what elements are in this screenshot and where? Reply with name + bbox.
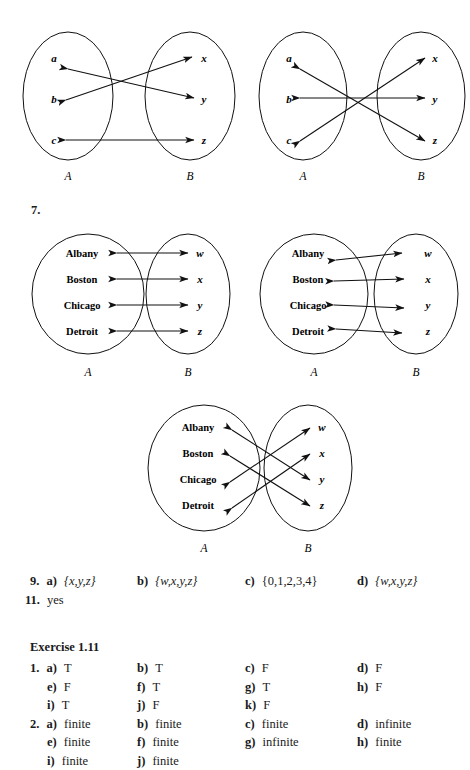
arrow-boston-z — [230, 456, 310, 506]
answer-number-9: 9. — [30, 574, 39, 588]
answers-section: 9. a) {x,y,z} b) {w,x,y,z} c) {0,1,2,3,4… — [0, 572, 470, 609]
exercise-value-2g: infinite — [263, 735, 299, 749]
exercise-value-1b: T — [155, 661, 163, 675]
element-label-albany: Albany — [182, 422, 215, 433]
exercise-number-7: 7. — [31, 203, 40, 218]
exercise-2-e: e) finite — [47, 733, 90, 752]
exercise-value-2c: finite — [262, 717, 288, 731]
exercise-row-1-ijk: i) T j) F k) F — [0, 696, 470, 715]
exercise-part-g: g) — [245, 680, 255, 694]
answer-part-d: d) — [357, 574, 368, 588]
exercise-2-f: f) finite — [137, 733, 179, 752]
exercise-part-g2: g) — [245, 735, 255, 749]
exercise-value-2b: finite — [155, 717, 181, 731]
exercise-1-g: g) T — [245, 678, 270, 697]
exercise-value-2h: finite — [375, 735, 401, 749]
diagram-4: Albany Boston Chicago Detroit w x y z A … — [252, 232, 468, 392]
exercise-1-h: h) F — [357, 678, 382, 697]
element-label-y: y — [318, 473, 325, 485]
exercise-value-1h: F — [375, 680, 382, 694]
element-label-x: x — [318, 447, 325, 459]
arrow-albany-w — [336, 253, 402, 260]
exercise-part-e2: e) — [47, 735, 57, 749]
exercise-number-2: 2. — [30, 717, 39, 731]
answer-value-11: yes — [47, 593, 64, 607]
exercise-part-f2: f) — [137, 735, 145, 749]
element-label-chicago: Chicago — [64, 300, 101, 311]
exercise-2-h: h) finite — [357, 733, 402, 752]
set-b-ellipse — [145, 32, 235, 160]
exercise-1-j: j) F — [137, 696, 159, 715]
exercise-2-j: j) finite — [137, 752, 179, 770]
answer-part-a: a) — [47, 574, 57, 588]
exercise-2-g: g) infinite — [245, 733, 299, 752]
element-label-a: a — [51, 52, 57, 64]
exercise-2-c: c) finite — [245, 715, 288, 734]
set-b-label: B — [304, 542, 311, 554]
element-label-w: w — [318, 421, 326, 433]
arrow-detroit-z — [336, 329, 402, 333]
diagram-5: Albany Boston Chicago Detroit w x y z A … — [140, 400, 358, 568]
answer-value-9d: {w,x,y,z} — [375, 574, 417, 588]
diagram-3-svg: Albany Boston Chicago Detroit w x y z A … — [22, 232, 240, 392]
set-b-ellipse — [377, 32, 465, 160]
exercise-value-2f: finite — [152, 735, 178, 749]
diagram-2: a b c x y z A B — [255, 28, 469, 196]
set-b-ellipse — [146, 234, 230, 354]
answer-9-b: b) {w,x,y,z} — [137, 572, 197, 591]
element-label-chicago: Chicago — [180, 474, 217, 485]
exercise-part-j2: j) — [137, 754, 145, 768]
element-label-boston: Boston — [67, 274, 98, 285]
arrow-chicago-y — [334, 305, 404, 308]
exercise-part-b2: b) — [137, 717, 148, 731]
set-a-ellipse — [23, 32, 113, 160]
diagram-3: Albany Boston Chicago Detroit w x y z A … — [22, 232, 240, 392]
answer-part-b: b) — [137, 574, 148, 588]
exercise-part-i: i) — [47, 698, 55, 712]
exercise-value-1c: F — [262, 661, 269, 675]
answer-part-c: c) — [245, 574, 255, 588]
element-label-albany: Albany — [292, 248, 325, 259]
element-label-boston: Boston — [183, 448, 214, 459]
answer-value-9a: {x,y,z} — [64, 574, 96, 588]
exercise-number-1: 1. — [30, 661, 39, 675]
set-a-ellipse — [259, 32, 347, 160]
exercise-value-1j: F — [152, 698, 159, 712]
answer-value-9c: {0,1,2,3,4} — [262, 574, 318, 588]
exercise-part-h2: h) — [357, 735, 368, 749]
set-b-label: B — [412, 366, 419, 378]
answer-row-9: 9. a) {x,y,z} b) {w,x,y,z} c) {0,1,2,3,4… — [0, 572, 470, 591]
exercise-part-c2: c) — [245, 717, 255, 731]
exercise-part-c: c) — [245, 661, 255, 675]
element-label-boston: Boston — [293, 274, 324, 285]
set-b-label: B — [184, 366, 191, 378]
element-label-detroit: Detroit — [66, 326, 98, 337]
element-label-chicago: Chicago — [290, 300, 327, 311]
exercise-part-d: d) — [357, 661, 368, 675]
exercise-value-1g: T — [263, 680, 271, 694]
exercise-part-a2: a) — [47, 717, 57, 731]
exercise-1-e: e) F — [47, 678, 71, 697]
arrow-a-z — [300, 69, 425, 141]
element-label-c: c — [52, 134, 57, 146]
element-label-a: a — [286, 52, 292, 64]
answer-value-9b: {w,x,y,z} — [155, 574, 197, 588]
element-label-z: z — [432, 134, 438, 146]
diagram-2-svg: a b c x y z A B — [255, 28, 469, 196]
exercise-row-2-ij: i) finite j) finite — [0, 752, 470, 770]
element-label-z: z — [201, 134, 207, 146]
exercise-1-i: i) T — [47, 696, 69, 715]
exercise-row-1-abcd: 1. a) T b) T c) F d) F — [0, 659, 470, 678]
diagram-5-svg: Albany Boston Chicago Detroit w x y z A … — [140, 400, 358, 568]
element-label-x: x — [196, 273, 203, 285]
set-a-label: A — [63, 170, 72, 182]
answer-number-11: 11. — [25, 593, 40, 607]
exercise-1-d: d) F — [357, 659, 382, 678]
set-a-label: A — [298, 170, 307, 182]
arrow-c-x — [300, 58, 425, 141]
element-label-x: x — [200, 52, 207, 64]
element-label-y: y — [424, 299, 431, 311]
element-label-c: c — [287, 134, 292, 146]
answer-9-d: d) {w,x,y,z} — [357, 572, 417, 591]
